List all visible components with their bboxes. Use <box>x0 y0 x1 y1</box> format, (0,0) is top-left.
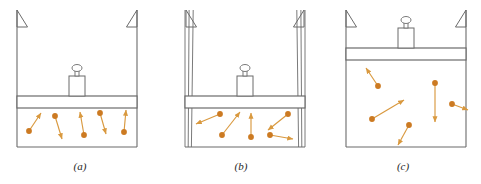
velocity-arrow <box>196 114 220 124</box>
velocity-arrow <box>29 113 41 131</box>
panel-caption-b: (b) <box>235 160 248 173</box>
velocity-arrow <box>372 100 404 119</box>
velocity-arrow <box>80 112 84 135</box>
weight-knob <box>240 65 250 72</box>
gas-particle <box>267 132 293 139</box>
particle-dot <box>406 122 412 128</box>
gas-particle <box>449 101 468 110</box>
gas-particle <box>268 111 291 130</box>
particle-dot <box>217 111 223 117</box>
particle-dot <box>52 113 58 119</box>
panel-caption-a: (a) <box>74 160 87 173</box>
velocity-arrow <box>222 112 240 135</box>
particle-dot <box>219 132 225 138</box>
velocity-arrow <box>398 125 409 145</box>
piston-slab[interactable] <box>17 96 137 108</box>
cylinder-right-wall-line <box>301 10 302 147</box>
weight-body[interactable] <box>398 28 414 48</box>
panel-c: (c) <box>346 10 468 173</box>
cylinder-left-wall-line <box>191 10 193 147</box>
wall-hatch-mark-right <box>126 10 137 27</box>
weight-knob <box>401 17 411 24</box>
piston-slab[interactable] <box>346 48 466 60</box>
gas-particle <box>432 80 438 122</box>
gas-particle <box>196 111 223 124</box>
gas-particle <box>398 122 412 145</box>
velocity-arrow <box>55 116 62 139</box>
velocity-arrow <box>100 113 106 134</box>
particle-dot <box>375 83 381 89</box>
particle-dot <box>432 80 438 86</box>
panel-b: (b) <box>185 10 305 173</box>
wall-hatch-mark-left <box>17 10 28 27</box>
particle-dot <box>81 132 87 138</box>
piston-slab[interactable] <box>185 96 305 108</box>
gas-particle <box>80 112 87 138</box>
weight-knob <box>72 65 82 72</box>
velocity-arrow <box>366 68 378 86</box>
gas-piston-figure: (a)(b)(c) <box>0 0 481 184</box>
panels-group: (a)(b)(c) <box>17 10 468 173</box>
particle-dot <box>248 134 254 140</box>
wall-hatch-mark-right <box>293 10 304 27</box>
gas-particle <box>97 110 106 134</box>
particle-dot <box>267 132 273 138</box>
particle-dot <box>121 129 127 135</box>
gas-particle <box>219 112 240 138</box>
wall-hatch-mark-right <box>455 10 466 27</box>
velocity-arrow <box>268 114 288 130</box>
gas-particle <box>121 110 127 135</box>
gas-particle <box>248 113 254 140</box>
gas-particle <box>26 113 41 134</box>
weight-body[interactable] <box>237 76 253 96</box>
velocity-arrow <box>124 110 126 132</box>
wall-hatch-mark-left <box>346 10 357 27</box>
cylinder-right-wall-line <box>297 10 299 147</box>
figure-container: (a)(b)(c) <box>0 0 481 184</box>
cylinder-left-wall-line <box>188 10 189 147</box>
gas-particle <box>369 100 404 122</box>
particle-dot <box>26 128 32 134</box>
particle-dot <box>449 101 455 107</box>
panel-caption-c: (c) <box>397 160 410 173</box>
weight-body[interactable] <box>69 76 85 96</box>
wall-hatch-mark-left <box>186 10 197 27</box>
gas-particle <box>366 68 381 89</box>
velocity-arrow <box>270 135 293 139</box>
panel-a: (a) <box>17 10 137 173</box>
gas-particle <box>52 113 62 139</box>
particle-dot <box>369 116 375 122</box>
particle-dot <box>285 111 291 117</box>
particle-dot <box>97 110 103 116</box>
